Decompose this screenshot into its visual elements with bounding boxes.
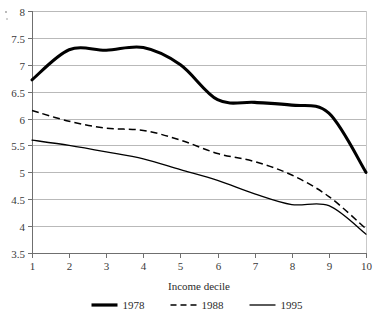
x-tick-label: 8 xyxy=(290,260,296,272)
x-tick-label: 3 xyxy=(104,260,110,272)
x-tick-label: 5 xyxy=(178,260,184,272)
y-tick-label: 5.5 xyxy=(11,140,25,152)
x-axis-title: Income decile xyxy=(168,280,230,292)
x-tick-label: 10 xyxy=(361,260,373,272)
y-tick-label: 4 xyxy=(20,221,26,233)
y-tick-label: 4.5 xyxy=(11,194,25,206)
line-chart: 3.544.555.566.577.58 12345678910 Income … xyxy=(0,0,384,323)
y-tick-label: 6.5 xyxy=(11,87,25,99)
y-tick-label: 8 xyxy=(20,6,26,18)
chart-background xyxy=(0,0,384,323)
x-tick-label: 9 xyxy=(327,260,333,272)
legend-label-1978: 1978 xyxy=(123,299,146,311)
y-tick-label: 6 xyxy=(20,114,26,126)
x-tick-label: 6 xyxy=(216,260,222,272)
y-tick-label: 7 xyxy=(20,60,26,72)
x-tick-label: 4 xyxy=(141,260,147,272)
y-tick-label: 3.5 xyxy=(11,248,25,260)
x-tick-label: 7 xyxy=(253,260,259,272)
scan-speck xyxy=(6,18,8,20)
y-tick-label: 5 xyxy=(20,167,26,179)
x-tick-label: 1 xyxy=(30,260,36,272)
scan-speck xyxy=(5,11,7,13)
chart-container: 3.544.555.566.577.58 12345678910 Income … xyxy=(0,0,384,323)
y-tick-label: 7.5 xyxy=(11,33,25,45)
legend-label-1988: 1988 xyxy=(202,299,225,311)
legend-label-1995: 1995 xyxy=(281,299,304,311)
x-tick-label: 2 xyxy=(67,260,73,272)
